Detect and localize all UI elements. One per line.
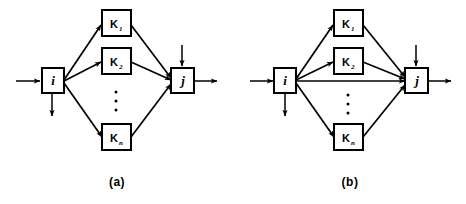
edge-i-to-kn bbox=[64, 83, 102, 137]
block-k1-subscript: 1 bbox=[119, 25, 123, 33]
vertical-ellipsis-icon bbox=[115, 91, 118, 112]
edge-kn-to-j bbox=[363, 85, 405, 137]
edge-k1-to-j bbox=[131, 25, 171, 78]
edge-kn-to-j bbox=[131, 84, 171, 137]
block-k1-label: K bbox=[110, 18, 118, 30]
diagram-panel-a: i j K 1 K 2 K n (a) bbox=[0, 0, 233, 204]
block-k2-subscript: 2 bbox=[118, 63, 123, 71]
block-k2-subscript: 2 bbox=[350, 63, 355, 71]
block-kn-label: K bbox=[342, 132, 350, 144]
edge-k1-to-j bbox=[363, 25, 405, 77]
node-i-label: i bbox=[283, 73, 287, 88]
diagram-b-canvas: i j K 1 K 2 K n (b) bbox=[233, 0, 466, 204]
block-kn-subscript: n bbox=[119, 139, 123, 147]
block-k2-label: K bbox=[342, 56, 350, 68]
edge-i-to-kn bbox=[296, 83, 334, 137]
caption-b: (b) bbox=[342, 175, 359, 189]
block-k1-subscript: 1 bbox=[351, 25, 355, 33]
diagram-a-canvas: i j K 1 K 2 K n (a) bbox=[0, 0, 233, 204]
block-k1-label: K bbox=[342, 18, 350, 30]
caption-a: (a) bbox=[109, 175, 125, 189]
block-kn-subscript: n bbox=[351, 139, 355, 147]
diagram-panel-b: i j K 1 K 2 K n (b) bbox=[233, 0, 466, 204]
vertical-ellipsis-icon bbox=[347, 94, 350, 115]
figure-container: i j K 1 K 2 K n (a) bbox=[0, 0, 466, 204]
block-kn-label: K bbox=[110, 132, 118, 144]
block-k2-label: K bbox=[110, 56, 118, 68]
node-i-label: i bbox=[51, 73, 55, 88]
